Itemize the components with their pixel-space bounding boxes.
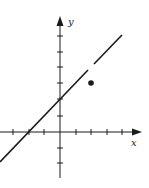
- x-axis-arrow-icon: [132, 129, 142, 136]
- graph-canvas: y x: [0, 0, 149, 188]
- filled-point: [88, 80, 94, 86]
- function-line-upper: [94, 35, 122, 64]
- function-line-lower: [0, 70, 88, 162]
- x-axis-label: x: [131, 137, 137, 148]
- y-axis-label: y: [67, 16, 74, 27]
- y-axis-arrow-icon: [57, 16, 64, 26]
